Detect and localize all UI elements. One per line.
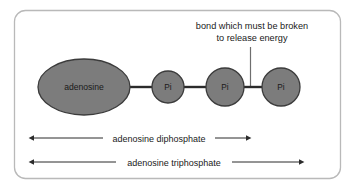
atp-label: adenosine triphosphate — [127, 158, 221, 168]
node-pi-3-label: Pi — [277, 83, 284, 92]
node-pi-1-label: Pi — [164, 83, 171, 92]
adp-label: adenosine diphosphate — [112, 134, 205, 144]
node-pi-2-label: Pi — [221, 83, 228, 92]
node-adenosine-label: adenosine — [64, 82, 104, 92]
annotation-line-1: bond which must be broken — [196, 21, 308, 31]
annotation-line-2: to release energy — [217, 33, 288, 43]
atp-adp-diagram: bond which must be broken to release ene… — [0, 0, 354, 191]
